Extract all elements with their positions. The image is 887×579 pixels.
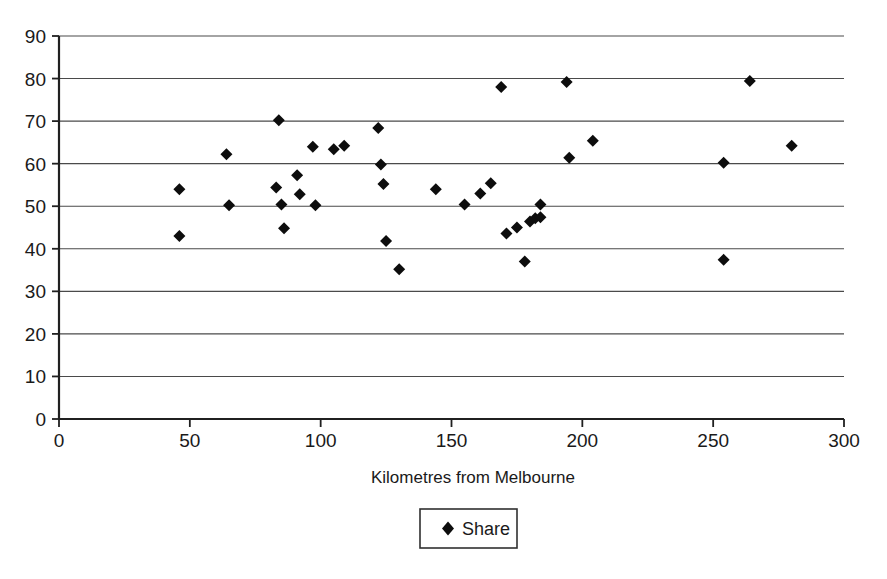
data-point-diamond (718, 157, 730, 169)
data-point-diamond (718, 254, 730, 266)
x-tick-label: 0 (54, 430, 65, 451)
data-point-diamond (375, 159, 387, 171)
data-point-diamond (511, 222, 523, 234)
data-point-diamond (474, 187, 486, 199)
y-tick-label: 10 (25, 366, 46, 387)
x-axis-title: Kilometres from Melbourne (371, 468, 575, 487)
data-point-diamond (173, 183, 185, 195)
data-points (173, 75, 797, 275)
data-point-diamond (278, 222, 290, 234)
data-point-diamond (220, 148, 232, 160)
data-point-diamond (786, 140, 798, 152)
data-point-diamond (500, 227, 512, 239)
data-point-diamond (563, 152, 575, 164)
data-point-diamond (393, 263, 405, 275)
x-tick-label: 300 (828, 430, 860, 451)
data-point-diamond (273, 114, 285, 126)
y-tick-label: 30 (25, 281, 46, 302)
y-axis-ticks: 0102030405060708090 (25, 26, 59, 430)
y-tick-label: 80 (25, 69, 46, 90)
data-point-diamond (459, 199, 471, 211)
scatter-chart: 0102030405060708090 050100150200250300 K… (0, 0, 887, 579)
data-point-diamond (294, 188, 306, 200)
y-tick-label: 60 (25, 154, 46, 175)
legend-label-share: Share (462, 519, 510, 539)
data-point-diamond (430, 183, 442, 195)
y-tick-label: 50 (25, 196, 46, 217)
data-point-diamond (485, 177, 497, 189)
data-point-diamond (534, 199, 546, 211)
data-point-diamond (338, 140, 350, 152)
chart-canvas: 0102030405060708090 050100150200250300 K… (0, 0, 887, 579)
y-tick-label: 90 (25, 26, 46, 47)
data-point-diamond (307, 141, 319, 153)
data-point-diamond (328, 143, 340, 155)
data-point-diamond (275, 199, 287, 211)
y-tick-label: 20 (25, 324, 46, 345)
x-tick-label: 250 (697, 430, 729, 451)
data-point-diamond (744, 75, 756, 87)
data-point-diamond (377, 178, 389, 190)
data-point-diamond (372, 122, 384, 134)
data-point-diamond (587, 135, 599, 147)
data-point-diamond (173, 230, 185, 242)
x-tick-label: 50 (179, 430, 200, 451)
data-point-diamond (270, 181, 282, 193)
gridlines (59, 36, 844, 376)
data-point-diamond (380, 235, 392, 247)
data-point-diamond (519, 256, 531, 268)
legend-diamond-icon (442, 522, 454, 536)
data-point-diamond (309, 199, 321, 211)
x-tick-label: 150 (436, 430, 468, 451)
data-point-diamond (495, 81, 507, 93)
x-axis-ticks: 050100150200250300 (54, 419, 860, 451)
data-point-diamond (223, 199, 235, 211)
y-tick-label: 70 (25, 111, 46, 132)
x-tick-label: 100 (305, 430, 337, 451)
data-point-diamond (291, 169, 303, 181)
y-tick-label: 40 (25, 239, 46, 260)
y-tick-label: 0 (35, 409, 46, 430)
data-point-diamond (561, 76, 573, 88)
x-tick-label: 200 (566, 430, 598, 451)
